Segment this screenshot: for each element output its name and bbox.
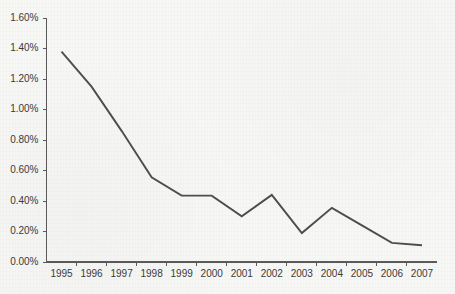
data-series <box>62 52 422 246</box>
x-axis-tick-label: 2003 <box>291 268 314 279</box>
x-axis-tick-label: 2005 <box>351 268 374 279</box>
x-axis-tick-label: 1996 <box>80 268 103 279</box>
x-axis-tick-label: 2000 <box>201 268 224 279</box>
line-chart: 0.00%0.20%0.40%0.60%0.80%1.00%1.20%1.40%… <box>0 0 455 294</box>
x-axis-tick-label: 1997 <box>110 268 133 279</box>
y-axis-tick-label: 0.20% <box>10 225 38 236</box>
x-axis-tick-label: 2001 <box>231 268 254 279</box>
x-axis-tick-label: 2007 <box>411 268 434 279</box>
y-axis-tick-label: 0.00% <box>10 256 38 267</box>
y-axis-tick-label: 1.40% <box>10 42 38 53</box>
x-axis-tick-label: 1995 <box>50 268 73 279</box>
y-axis-tick-label: 1.60% <box>10 12 38 23</box>
y-axis-tick-label: 0.80% <box>10 134 38 145</box>
x-axis-tick-label: 2004 <box>321 268 344 279</box>
y-axis-tick-label: 1.20% <box>10 73 38 84</box>
series-line <box>62 52 422 246</box>
x-axis-tick-label: 2006 <box>381 268 404 279</box>
chart-plot-area: 0.00%0.20%0.40%0.60%0.80%1.00%1.20%1.40%… <box>0 0 455 294</box>
x-axis-tick-label: 2002 <box>261 268 284 279</box>
x-axis-tick-label: 1999 <box>171 268 194 279</box>
y-axis-tick-label: 0.40% <box>10 195 38 206</box>
x-axis-tick-label: 1998 <box>141 268 164 279</box>
y-axis: 0.00%0.20%0.40%0.60%0.80%1.00%1.20%1.40%… <box>10 12 46 267</box>
y-axis-tick-label: 1.00% <box>10 103 38 114</box>
y-axis-tick-label: 0.60% <box>10 164 38 175</box>
x-axis: 1995199619971998199920002001200220032004… <box>47 262 438 279</box>
